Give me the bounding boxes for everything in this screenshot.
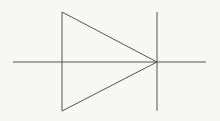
diode-symbol: [0, 0, 220, 121]
background: [0, 0, 220, 121]
